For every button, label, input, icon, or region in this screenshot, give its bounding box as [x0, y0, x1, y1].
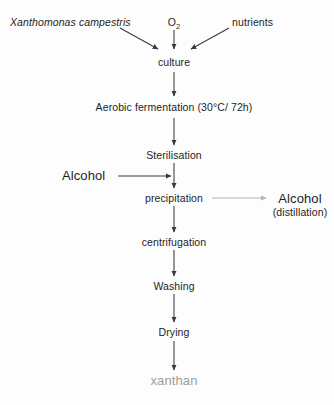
node-sterilisation: Sterilisation: [146, 149, 202, 161]
node-culture: culture: [158, 56, 190, 68]
node-alcohol-distillation-label: Alcohol: [278, 191, 321, 206]
flowchart-diagram: Xanthomonas campestris O2 nutrients cult…: [0, 0, 334, 405]
node-washing: Washing: [153, 280, 194, 292]
node-alcohol-distillation-note: (distillation): [273, 206, 328, 219]
node-precipitation: precipitation: [145, 192, 203, 204]
node-alcohol-input: Alcohol: [62, 168, 105, 183]
edge-organism-to-culture: [120, 28, 158, 49]
node-drying: Drying: [159, 326, 190, 338]
node-oxygen: O2: [168, 16, 181, 31]
node-xanthan-product: xanthan: [151, 373, 198, 388]
node-centrifugation: centrifugation: [142, 236, 206, 248]
node-aerobic-fermentation: Aerobic fermentation (30°C/ 72h): [96, 101, 253, 113]
node-nutrients: nutrients: [232, 16, 273, 28]
node-organism: Xanthomonas campestris: [10, 16, 131, 28]
node-alcohol-distillation: Alcohol (distillation): [273, 191, 328, 219]
edge-nutrients-to-culture: [191, 28, 229, 49]
node-oxygen-subscript: 2: [176, 22, 180, 31]
